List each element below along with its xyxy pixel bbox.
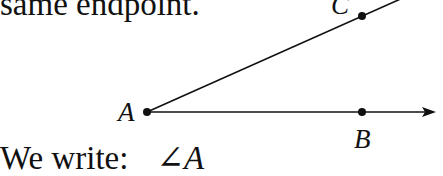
angle-name: A [184,140,204,176]
notation-prefix: We write: [0,140,128,176]
notation-line: We write:∠A [0,138,204,176]
label-c: C [331,0,349,21]
point-a [143,108,151,116]
point-c [358,12,366,20]
angle-symbol-icon: ∠ [156,140,184,176]
point-b [358,108,366,116]
ray-ac [147,0,405,112]
label-b: B [354,124,371,155]
label-a: A [118,97,135,128]
